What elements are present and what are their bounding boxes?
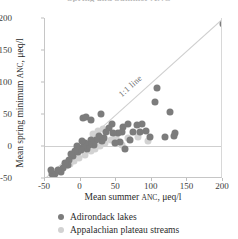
data-point <box>220 21 222 28</box>
x-tick-label: 0 <box>77 181 82 191</box>
x-tick-mark <box>115 178 116 181</box>
x-tick-mark <box>44 178 45 181</box>
x-tick-label: 150 <box>180 181 194 191</box>
one-to-one-line-label: 1:1 line <box>116 73 144 99</box>
data-point <box>133 121 140 128</box>
y-tick-label: 50 <box>0 109 12 119</box>
plot-canvas: 1:1 line <box>45 18 221 177</box>
legend-marker-icon <box>58 227 64 233</box>
x-tick-mark <box>80 178 81 181</box>
zero-reference-line <box>45 146 221 147</box>
chart-legend: Adirondack lakesAppalachian plateau stre… <box>58 210 238 236</box>
y-tick-label: -50 <box>0 173 12 183</box>
y-tick-label: 150 <box>0 45 12 55</box>
data-point <box>130 128 137 135</box>
data-point <box>47 166 54 173</box>
data-point <box>111 140 118 147</box>
y-tick-label: 100 <box>0 77 12 87</box>
x-tick-mark <box>151 178 152 181</box>
data-point <box>87 116 94 123</box>
data-point <box>154 85 161 92</box>
data-point <box>147 134 154 141</box>
x-tick-label: 100 <box>144 181 158 191</box>
x-tick-label: 50 <box>111 181 120 191</box>
data-point <box>170 133 177 140</box>
y-tick-label: 200 <box>0 13 12 23</box>
data-point <box>151 99 158 106</box>
x-tick-label: -50 <box>38 181 50 191</box>
data-point <box>97 111 104 118</box>
y-tick-label: 0 <box>0 141 12 151</box>
data-point <box>136 128 143 135</box>
data-point <box>161 134 168 141</box>
data-point <box>127 137 134 144</box>
x-tick-label: 200 <box>215 181 229 191</box>
legend-label: Adirondack lakes <box>70 212 137 222</box>
legend-item[interactable]: Appalachian plateau streams <box>58 223 238 236</box>
legend-item[interactable]: Adirondack lakes <box>58 210 238 223</box>
data-point <box>121 145 128 152</box>
legend-marker-icon <box>58 214 64 220</box>
x-tick-mark <box>222 178 223 181</box>
x-axis-label: Mean summer ANC, μeq/l <box>44 192 222 202</box>
scatter-plot-figure: Spring and Summer ANC Mean spring minimu… <box>0 0 238 239</box>
data-point <box>166 109 173 116</box>
chart-title: Spring and Summer ANC <box>0 0 238 2</box>
x-tick-mark <box>186 178 187 181</box>
data-point <box>143 128 150 135</box>
legend-label: Appalachian plateau streams <box>70 225 179 235</box>
plot-area: 1:1 line <box>44 18 222 178</box>
y-axis-label: Mean spring minimum ANC, μeq/l <box>15 19 25 187</box>
